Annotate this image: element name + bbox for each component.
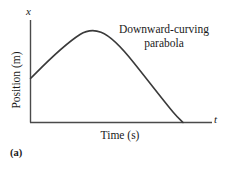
y-axis-title: Position (m) xyxy=(11,35,23,125)
y-axis-variable-label: x xyxy=(26,6,31,17)
x-axis-title: Time (s) xyxy=(80,130,160,142)
figure-panel: x t Position (m) Time (s) Downward-curvi… xyxy=(0,0,230,170)
x-axis-variable-label: t xyxy=(214,114,217,125)
curve-annotation-line-2: parabola xyxy=(144,37,184,49)
curve-annotation-line-1: Downward-curving xyxy=(119,23,209,35)
curve-annotation: Downward-curving parabola xyxy=(112,23,216,50)
figure-label: (a) xyxy=(10,148,22,159)
